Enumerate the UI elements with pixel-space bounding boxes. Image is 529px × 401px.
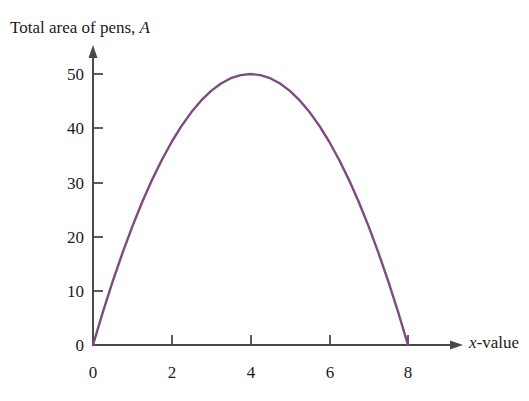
y-tick-label: 20 xyxy=(67,228,84,247)
y-tick-label: 10 xyxy=(67,282,84,301)
x-tick-label: 2 xyxy=(168,363,177,382)
y-tick-label: 0 xyxy=(76,336,85,355)
y-tick-label: 30 xyxy=(67,174,84,193)
x-tick-label: 4 xyxy=(247,363,256,382)
x-tick-label: 0 xyxy=(89,363,98,382)
x-ticks-group xyxy=(172,335,408,345)
y-tick-label: 40 xyxy=(67,119,84,138)
chart-figure: Total area of pens, A x-value 0 10 20 30… xyxy=(0,0,529,401)
x-tick-label: 8 xyxy=(404,363,413,382)
plot-area: 0 10 20 30 40 50 0 2 4 6 8 xyxy=(0,0,529,401)
y-tick-label: 50 xyxy=(67,65,84,84)
x-axis-arrow-icon xyxy=(450,341,463,350)
y-axis-arrow-icon xyxy=(89,45,98,58)
data-curve xyxy=(93,74,408,345)
y-tick-labels-group: 0 10 20 30 40 50 xyxy=(67,65,84,355)
y-ticks-group xyxy=(93,74,103,291)
x-tick-labels-group: 0 2 4 6 8 xyxy=(89,363,413,382)
x-tick-label: 6 xyxy=(326,363,335,382)
